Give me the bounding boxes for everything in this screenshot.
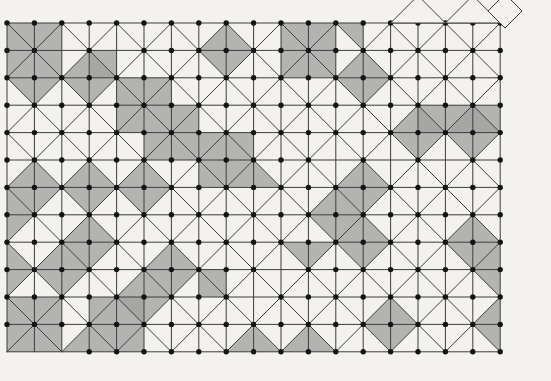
vertex-dot	[443, 267, 448, 272]
vertex-dot	[278, 294, 283, 299]
vertex-dot	[87, 349, 92, 354]
vertex-dot	[141, 240, 146, 245]
vertex-dot	[251, 75, 256, 80]
vertex-dot	[278, 185, 283, 190]
vertex-dot	[4, 185, 9, 190]
vertex-dot	[114, 322, 119, 327]
vertex-dot	[333, 75, 338, 80]
vertex-dot	[361, 157, 366, 162]
vertex-dot	[443, 103, 448, 108]
vertex-dot	[498, 322, 503, 327]
vertex-dot	[498, 48, 503, 53]
vertex-dot	[224, 294, 229, 299]
vertex-dot	[415, 130, 420, 135]
vertex-dot	[169, 240, 174, 245]
vertex-dot	[470, 240, 475, 245]
vertex-dot	[333, 322, 338, 327]
vertex-dot	[415, 267, 420, 272]
vertex-dot	[361, 103, 366, 108]
vertex-dot	[59, 322, 64, 327]
vertex-dot	[59, 294, 64, 299]
vertex-dot	[32, 185, 37, 190]
vertex-dot	[141, 130, 146, 135]
vertex-dot	[415, 185, 420, 190]
vertex-dot	[278, 349, 283, 354]
vertex-dot	[224, 157, 229, 162]
vertex-dot	[498, 103, 503, 108]
vertex-dot	[169, 103, 174, 108]
vertex-dot	[251, 322, 256, 327]
vertex-dot	[59, 267, 64, 272]
vertex-dot	[251, 267, 256, 272]
vertex-dot	[498, 212, 503, 217]
vertex-dot	[306, 75, 311, 80]
vertex-dot	[498, 130, 503, 135]
vertex-dot	[4, 103, 9, 108]
vertex-dot	[470, 130, 475, 135]
vertex-dot	[141, 294, 146, 299]
vertex-dot	[498, 294, 503, 299]
vertex-dot	[333, 267, 338, 272]
vertex-dot	[196, 322, 201, 327]
vertex-dot	[4, 130, 9, 135]
vertex-dot	[361, 75, 366, 80]
vertex-dot	[32, 322, 37, 327]
vertex-dot	[196, 103, 201, 108]
vertex-dot	[32, 130, 37, 135]
vertex-dot	[251, 48, 256, 53]
vertex-dot	[4, 322, 9, 327]
vertex-dot	[114, 130, 119, 135]
vertex-dot	[251, 349, 256, 354]
vertex-dot	[224, 103, 229, 108]
vertex-dot	[470, 185, 475, 190]
vertex-dot	[59, 212, 64, 217]
vertex-dot	[87, 103, 92, 108]
vertex-dot	[141, 75, 146, 80]
vertex-dot	[251, 130, 256, 135]
vertex-dot	[443, 322, 448, 327]
vertex-dot	[388, 294, 393, 299]
vertex-dot	[32, 157, 37, 162]
vertex-dot	[59, 157, 64, 162]
vertex-dot	[278, 20, 283, 25]
vertex-dot	[114, 267, 119, 272]
vertex-dot	[196, 294, 201, 299]
vertex-dot	[32, 212, 37, 217]
vertex-dot	[361, 48, 366, 53]
vertex-dot	[333, 212, 338, 217]
vertex-dot	[388, 322, 393, 327]
vertex-dot	[388, 103, 393, 108]
vertex-dot	[388, 267, 393, 272]
vertex-dot	[251, 240, 256, 245]
vertex-dot	[361, 267, 366, 272]
vertex-dot	[415, 212, 420, 217]
vertex-dot	[87, 48, 92, 53]
vertex-dot	[361, 20, 366, 25]
vertex-dot	[169, 75, 174, 80]
vertex-dot	[196, 130, 201, 135]
vertex-dot	[388, 130, 393, 135]
vertex-dot	[470, 322, 475, 327]
vertex-dot	[251, 157, 256, 162]
vertex-dot	[169, 322, 174, 327]
vertex-dot	[388, 48, 393, 53]
vertex-dot	[498, 185, 503, 190]
vertex-dot	[498, 75, 503, 80]
vertex-dot	[415, 48, 420, 53]
vertex-dot	[361, 212, 366, 217]
vertex-dot	[87, 294, 92, 299]
vertex-dot	[388, 240, 393, 245]
vertex-dot	[59, 130, 64, 135]
vertex-dot	[415, 322, 420, 327]
vertex-dot	[4, 212, 9, 217]
vertex-dot	[333, 20, 338, 25]
lattice-diagram	[0, 0, 551, 381]
vertex-dot	[224, 20, 229, 25]
vertex-dot	[470, 157, 475, 162]
vertex-dot	[87, 322, 92, 327]
vertex-dot	[141, 349, 146, 354]
vertex-dot	[388, 75, 393, 80]
vertex-dot	[114, 294, 119, 299]
vertex-dot	[470, 75, 475, 80]
vertex-dot	[306, 48, 311, 53]
